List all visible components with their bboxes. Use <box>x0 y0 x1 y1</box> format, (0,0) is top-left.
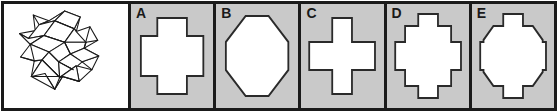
option-panel-d[interactable]: D <box>387 4 472 108</box>
option-panel-a[interactable]: A <box>131 4 216 108</box>
option-letter-a: A <box>136 5 146 21</box>
option-letter-d: D <box>392 5 402 21</box>
option-panel-c[interactable]: C <box>301 4 386 108</box>
option-letter-c: C <box>306 5 316 21</box>
three-dimensional-cross-solid-drawing <box>4 4 128 108</box>
spatial-reasoning-question: A B C <box>0 0 558 112</box>
option-panel-b[interactable]: B <box>216 4 301 108</box>
option-letter-b: B <box>221 5 231 21</box>
question-frame: A B C <box>1 1 557 111</box>
option-letter-e: E <box>477 5 486 21</box>
answer-options-strip: A B C <box>131 4 554 108</box>
stimulus-panel <box>4 4 131 108</box>
option-panel-e[interactable]: E <box>472 4 554 108</box>
